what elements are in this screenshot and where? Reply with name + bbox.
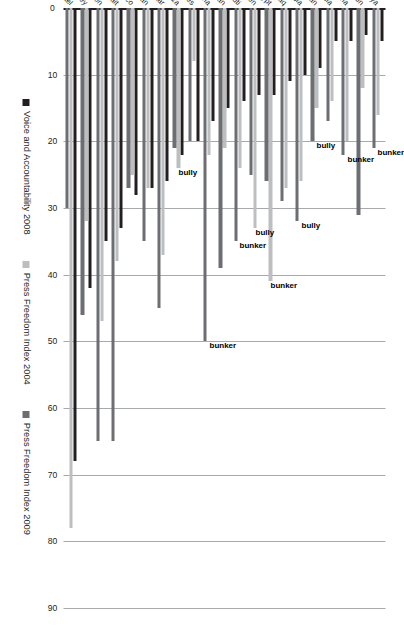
tick-label: 70 bbox=[40, 470, 64, 480]
bar bbox=[88, 8, 91, 288]
bar-group bbox=[63, 8, 78, 634]
bar bbox=[257, 8, 260, 95]
bar bbox=[69, 8, 72, 528]
bar bbox=[253, 8, 256, 228]
bar bbox=[310, 8, 313, 141]
tick-label: 30 bbox=[40, 203, 64, 213]
bar bbox=[104, 8, 107, 241]
legend-swatch-icon bbox=[23, 99, 30, 106]
bar bbox=[280, 8, 283, 201]
bar-groups bbox=[63, 8, 385, 634]
bar bbox=[226, 8, 229, 108]
legend-label: Voice and Accountability 2008 bbox=[21, 111, 31, 235]
bar bbox=[73, 8, 76, 461]
legend-swatch-icon bbox=[23, 411, 30, 418]
tick-label: 80 bbox=[40, 536, 64, 546]
bar bbox=[188, 8, 191, 141]
bar bbox=[165, 8, 168, 181]
legend-label: Press Freedom Index 2004 bbox=[21, 273, 31, 385]
bar bbox=[356, 8, 359, 215]
bar bbox=[172, 8, 175, 148]
bar bbox=[238, 8, 241, 168]
legend-label: Press Freedom Index 2009 bbox=[21, 423, 31, 535]
bar bbox=[119, 8, 122, 228]
bar bbox=[272, 8, 275, 95]
bar-annotation: bunker bbox=[270, 281, 297, 290]
bar bbox=[330, 8, 333, 101]
bar-group bbox=[140, 8, 155, 634]
bar-group bbox=[308, 8, 323, 634]
plot-area: bullybunkerbunkerbullybunkerbullybullybu… bbox=[63, 0, 385, 634]
bar-group bbox=[124, 8, 139, 634]
tick-label: 10 bbox=[40, 70, 64, 80]
bar-annotation: bully bbox=[316, 141, 335, 150]
bar bbox=[115, 8, 118, 261]
bar bbox=[65, 8, 68, 208]
bar bbox=[196, 8, 199, 141]
category-label: Iran bbox=[304, 0, 320, 7]
bar bbox=[326, 8, 329, 121]
bar bbox=[146, 8, 149, 188]
bar bbox=[372, 8, 375, 148]
bar-group bbox=[247, 8, 262, 634]
tick-label: 40 bbox=[40, 270, 64, 280]
bar bbox=[84, 8, 87, 221]
bar-group bbox=[232, 8, 247, 634]
bar-group bbox=[94, 8, 109, 634]
bar-group bbox=[262, 8, 277, 634]
bar bbox=[284, 8, 287, 188]
bar bbox=[299, 8, 302, 181]
bar bbox=[268, 8, 271, 281]
bar bbox=[288, 8, 291, 81]
bar-group bbox=[155, 8, 170, 634]
bar-annotation: bunker bbox=[347, 154, 374, 163]
bar bbox=[380, 8, 383, 41]
bar bbox=[203, 8, 206, 341]
bar bbox=[364, 8, 367, 35]
bar bbox=[207, 8, 210, 155]
bar bbox=[218, 8, 221, 268]
bar bbox=[192, 8, 195, 61]
bar-group bbox=[339, 8, 354, 634]
bar-group bbox=[201, 8, 216, 634]
chart-legend: Voice and Accountability 2008Press Freed… bbox=[21, 0, 31, 634]
bar bbox=[157, 8, 160, 308]
bar bbox=[211, 8, 214, 121]
bar bbox=[96, 8, 99, 441]
bar bbox=[142, 8, 145, 241]
bar-annotation: bully bbox=[178, 168, 197, 177]
bar bbox=[303, 8, 306, 75]
bar-group bbox=[78, 8, 93, 634]
bar-group bbox=[354, 8, 369, 634]
bar bbox=[249, 8, 252, 175]
bar bbox=[222, 8, 225, 148]
bar-annotation: bunker bbox=[377, 148, 404, 157]
bar bbox=[234, 8, 237, 241]
bar-group bbox=[216, 8, 231, 634]
bar-group bbox=[324, 8, 339, 634]
bar bbox=[242, 8, 245, 101]
bar bbox=[341, 8, 344, 155]
bar bbox=[349, 8, 352, 41]
bar bbox=[360, 8, 363, 88]
bar bbox=[134, 8, 137, 195]
bar-annotation: bunker bbox=[209, 341, 236, 350]
legend-item: Press Freedom Index 2009 bbox=[21, 411, 31, 535]
bar bbox=[150, 8, 153, 188]
category-label: Iraq bbox=[273, 0, 289, 7]
tick-label: 0 bbox=[40, 3, 64, 13]
legend-item: Press Freedom Index 2004 bbox=[21, 261, 31, 385]
tick-label: 20 bbox=[40, 136, 64, 146]
bar bbox=[111, 8, 114, 441]
bar bbox=[376, 8, 379, 115]
bar bbox=[100, 8, 103, 321]
bar-annotation: bully bbox=[301, 221, 320, 230]
bar bbox=[345, 8, 348, 141]
bar bbox=[314, 8, 317, 108]
bar bbox=[334, 8, 337, 41]
bar bbox=[130, 8, 133, 175]
bar bbox=[180, 8, 183, 155]
bar-group bbox=[278, 8, 293, 634]
bar bbox=[161, 8, 164, 255]
bar-annotation: bully bbox=[255, 228, 274, 237]
